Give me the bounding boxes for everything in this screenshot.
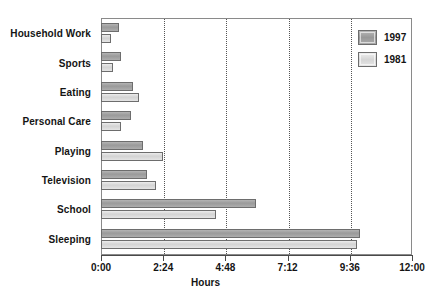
x-tick-1 [163, 255, 164, 261]
x-tick-label-3: 7:12 [278, 262, 298, 273]
category-label-household-work: Household Work [0, 19, 96, 48]
legend-swatch-1981 [358, 52, 377, 67]
bar-group-playing [101, 137, 412, 166]
category-label-sports: Sports [0, 48, 96, 77]
bar-sports-1981[interactable] [101, 63, 113, 72]
x-tick-2 [225, 255, 226, 261]
bar-personal-care-1981[interactable] [101, 122, 121, 131]
category-label-sleeping: Sleeping [0, 225, 96, 254]
x-tick-0 [101, 255, 102, 261]
bar-household-work-1997[interactable] [101, 23, 119, 32]
x-tick-label-2: 4:48 [215, 262, 235, 273]
bar-eating-1981[interactable] [101, 93, 139, 102]
legend-item-1981[interactable]: 1981 [358, 52, 428, 67]
bar-sports-1997[interactable] [101, 52, 121, 61]
category-label-playing: Playing [0, 137, 96, 166]
x-tick-label-1: 2:24 [153, 262, 173, 273]
category-label-television: Television [0, 166, 96, 195]
x-axis-title: Hours [0, 277, 433, 288]
bar-group-television [101, 166, 412, 195]
x-tick-label-5: 12:00 [399, 262, 425, 273]
legend-swatch-1997 [358, 30, 377, 45]
category-label-personal-care: Personal Care [0, 107, 96, 136]
bar-playing-1997[interactable] [101, 141, 143, 150]
bar-playing-1981[interactable] [101, 152, 163, 161]
bar-group-sleeping [101, 225, 412, 254]
bar-chart: Household Work Sports Eating Personal Ca… [0, 0, 433, 297]
legend-label-1997: 1997 [384, 32, 406, 43]
category-label-school: School [0, 195, 96, 224]
x-axis-title-text: Hours [191, 277, 220, 288]
legend-item-1997[interactable]: 1997 [358, 30, 428, 45]
category-label-eating: Eating [0, 78, 96, 107]
bar-group-eating [101, 78, 412, 107]
x-tick-label-4: 9:36 [340, 262, 360, 273]
bar-group-personal-care [101, 107, 412, 136]
bar-television-1981[interactable] [101, 181, 156, 190]
x-axis-line [101, 255, 412, 256]
bar-sleeping-1997[interactable] [101, 229, 360, 238]
bar-personal-care-1997[interactable] [101, 111, 131, 120]
category-axis-labels: Household Work Sports Eating Personal Ca… [0, 19, 96, 254]
bar-eating-1997[interactable] [101, 82, 133, 91]
x-tick-4 [350, 255, 351, 261]
x-tick-3 [288, 255, 289, 261]
bar-school-1997[interactable] [101, 199, 256, 208]
bar-sleeping-1981[interactable] [101, 240, 357, 249]
bar-television-1997[interactable] [101, 170, 147, 179]
bar-household-work-1981[interactable] [101, 34, 111, 43]
legend: 1997 1981 [358, 30, 428, 74]
bar-school-1981[interactable] [101, 210, 216, 219]
bar-group-school [101, 195, 412, 224]
x-tick-5 [412, 255, 413, 261]
x-tick-label-0: 0:00 [91, 262, 111, 273]
legend-label-1981: 1981 [384, 54, 406, 65]
